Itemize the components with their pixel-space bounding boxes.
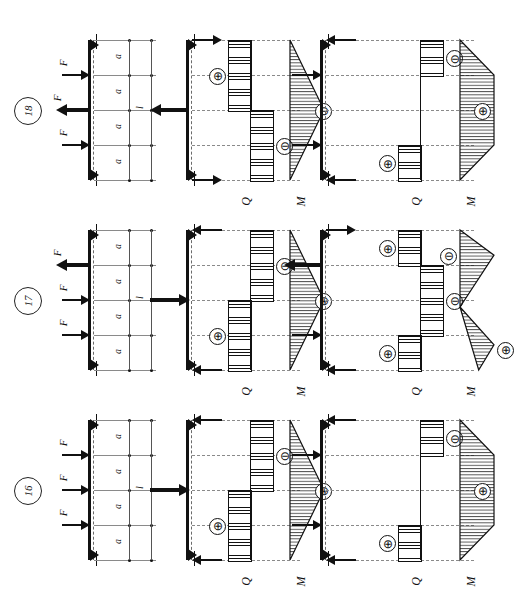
moment-axis-label: M <box>464 387 479 397</box>
shear-block <box>398 145 422 182</box>
shear-axis-label: Q <box>409 197 424 206</box>
loading-diagram: aaaalFFF <box>60 400 180 590</box>
dimension-label-a: a <box>112 504 123 509</box>
load-label-F: F <box>57 510 69 517</box>
load-label-F: F <box>57 475 69 482</box>
dimension-datum <box>94 420 156 421</box>
shear-sign: ⊕ <box>209 68 226 85</box>
moment-axis-label: M <box>294 197 309 207</box>
dimension-line-a <box>129 230 130 370</box>
moment-axis-label: M <box>464 577 479 587</box>
dimension-line-a <box>129 40 130 180</box>
shear-axis-label: Q <box>239 577 254 586</box>
shear-sign-glyph: ⊖ <box>450 295 460 307</box>
qm-panel-right: ⊕⊖⊕ ⊖⊕QM <box>312 210 482 400</box>
dimension-datum <box>94 560 156 561</box>
shear-zero-axis <box>420 230 421 370</box>
shear-axis-label: Q <box>239 387 254 396</box>
shear-block <box>228 300 252 372</box>
shear-sign: ⊕ <box>209 328 226 345</box>
shear-axis-label: Q <box>409 387 424 396</box>
dimension-datum <box>94 145 156 146</box>
load-label-F: F <box>57 285 69 292</box>
beam-endcap-top <box>194 34 195 49</box>
moment-sign-glyph: ⊖ <box>444 250 454 262</box>
dimension-datum <box>94 265 156 266</box>
dimension-label-a: a <box>112 54 123 59</box>
shear-zero-axis <box>250 230 251 370</box>
loading-diagram: aaaalFFF <box>60 20 180 210</box>
moment-sign: ⊕ <box>497 342 514 359</box>
shear-sign: ⊕ <box>379 240 396 257</box>
case-row: 16aaaalFFF⊖⊕ ⊕QM⊖⊕ ⊕QM <box>0 400 485 590</box>
dimension-datum <box>94 75 156 76</box>
qm-panel-right: ⊖⊕ ⊕QM <box>312 20 482 210</box>
dimension-label-l: l <box>134 296 145 299</box>
moment-sign-glyph: ⊕ <box>478 485 488 497</box>
dimension-label-a: a <box>112 89 123 94</box>
shear-zero-axis <box>250 420 251 560</box>
qm-datum <box>326 490 474 491</box>
shear-sign-glyph: ⊖ <box>280 450 290 462</box>
beam <box>320 230 323 370</box>
dimension-label-a: a <box>112 244 123 249</box>
qm-panel-right: ⊖⊕ ⊕QM <box>312 400 482 590</box>
qm-panel-mid: ⊕⊖ ⊖QM <box>178 20 308 210</box>
dimension-datum <box>94 180 156 181</box>
dimension-label-a: a <box>112 349 123 354</box>
shear-sign-glyph: ⊕ <box>213 70 223 82</box>
beam-endcap-bottom <box>96 361 97 376</box>
shear-block <box>228 490 252 562</box>
moment-sign: ⊕ <box>474 103 491 120</box>
qm-datum <box>326 75 474 76</box>
shear-sign-glyph: ⊖ <box>280 140 290 152</box>
beam-endcap-top <box>96 414 97 429</box>
shear-sign-glyph: ⊕ <box>383 157 393 169</box>
dimension-datum <box>94 335 156 336</box>
moment-sign-glyph: ⊕ <box>478 105 488 117</box>
shear-sign: ⊕ <box>209 518 226 535</box>
dimension-datum <box>94 370 156 371</box>
shear-zero-axis <box>420 40 421 180</box>
qm-panel-mid: ⊖⊕ ⊕QM <box>178 210 308 400</box>
dimension-label-a: a <box>112 159 123 164</box>
beam-endcap-top <box>328 224 329 239</box>
moment-axis-label: M <box>294 577 309 587</box>
beam-endcap-bottom <box>96 551 97 566</box>
shear-block <box>398 230 422 267</box>
load-label-F: F <box>57 130 69 137</box>
case-number-badge: 18 <box>14 97 42 125</box>
dimension-label-a: a <box>112 124 123 129</box>
dimension-label-l: l <box>134 106 145 109</box>
shear-sign-glyph: ⊕ <box>383 347 393 359</box>
dimension-datum <box>94 490 156 491</box>
dimension-label-a: a <box>112 434 123 439</box>
shear-block <box>250 420 274 492</box>
moment-sign: ⊖ <box>440 248 457 265</box>
qm-panel-mid: ⊖⊕ ⊕QM <box>178 400 308 590</box>
case-row: 17aaaalFFF⊖⊕ ⊕QM⊕⊖⊕ ⊖⊕QM <box>0 210 485 400</box>
dimension-datum <box>94 230 156 231</box>
shear-sign-glyph: ⊖ <box>450 432 460 444</box>
dimension-line-a <box>129 420 130 560</box>
shear-sign-glyph: ⊕ <box>383 242 393 254</box>
shear-block <box>398 335 422 372</box>
shear-axis-label: Q <box>409 577 424 586</box>
shear-sign: ⊕ <box>379 345 396 362</box>
shear-block <box>250 110 274 182</box>
dimension-label-a: a <box>112 279 123 284</box>
qm-datum <box>326 455 474 456</box>
beam-endcap-bottom <box>96 171 97 186</box>
moment-axis-label: M <box>464 197 479 207</box>
shear-zero-axis <box>250 40 251 180</box>
shear-sign: ⊕ <box>379 155 396 172</box>
beam-endcap-top <box>96 224 97 239</box>
case-number-badge: 17 <box>14 287 42 315</box>
dimension-datum <box>94 110 156 111</box>
shear-axis-label: Q <box>239 197 254 206</box>
dimension-label-a: a <box>112 469 123 474</box>
case-row: 18aaaalFFF⊕⊖ ⊖QM⊖⊕ ⊕QM <box>0 20 485 210</box>
beam <box>320 420 323 560</box>
qm-datum <box>326 110 474 111</box>
shear-block <box>228 40 252 112</box>
